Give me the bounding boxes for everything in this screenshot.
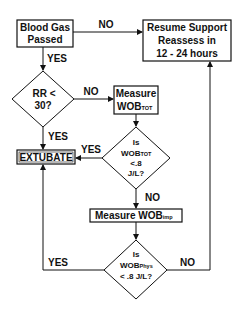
wob-tot-decision-node: Is WOBTOT <.8 J/L?	[102, 127, 170, 189]
arrow-wob-phys-no	[167, 62, 210, 270]
blood-gas-text-1: Blood Gas	[20, 22, 70, 33]
wob-phys-decision-node: Is WOBPhys < .8 J/L?	[104, 240, 167, 299]
resume-text-1: Resume Support	[147, 22, 228, 33]
rr-text-2: 30?	[34, 100, 51, 111]
wob-tot-check-text-4: J/L?	[128, 169, 145, 178]
flowchart: Blood Gas Passed Resume Support Reassess…	[0, 0, 243, 313]
label-wob-tot-yes: YES	[81, 144, 101, 155]
svg-text:WOBTOT: WOBTOT	[121, 149, 152, 158]
svg-text:Measure WOBimp: Measure WOBimp	[95, 210, 173, 221]
measure-wob-tot-node: Measure WOBTOT	[114, 86, 158, 114]
resume-text-3: 12 - 24 hours	[156, 48, 218, 59]
label-rr-yes: YES	[48, 131, 68, 142]
label-bloodgas-yes: YES	[47, 53, 67, 64]
label-wob-phys-no: NO	[180, 257, 195, 268]
label-bloodgas-no: NO	[99, 19, 114, 30]
measure-wob-tot-text-1: Measure	[116, 88, 157, 99]
wob-phys-check-sub: Phys	[140, 263, 153, 269]
label-wob-tot-no: NO	[145, 192, 160, 203]
blood-gas-node: Blood Gas Passed	[17, 20, 73, 47]
measure-wob-imp-sub: imp	[163, 214, 173, 220]
extubate-node: EXTUBATE	[17, 150, 75, 164]
measure-wob-imp-node: Measure WOBimp	[90, 209, 182, 222]
label-wob-phys-yes: YES	[48, 257, 68, 268]
resume-text-2: Reassess in	[158, 35, 216, 46]
wob-phys-check-text-3: < .8 J/L?	[120, 272, 152, 281]
measure-wob-tot-sub: TOT	[141, 105, 153, 111]
rr-decision-node: RR < 30?	[12, 71, 74, 127]
svg-text:WOBPhys: WOBPhys	[120, 261, 153, 270]
extubate-text: EXTUBATE	[19, 152, 72, 163]
wob-tot-check-main: WOB	[121, 149, 141, 158]
rr-text-1: RR <	[32, 88, 55, 99]
wob-tot-check-text-1: Is	[133, 138, 140, 147]
resume-support-node: Resume Support Reassess in 12 - 24 hours	[143, 20, 231, 61]
wob-tot-check-sub: TOT	[141, 151, 153, 157]
wob-phys-check-main: WOB	[120, 261, 140, 270]
label-rr-no: NO	[84, 86, 99, 97]
wob-tot-check-text-3: <.8	[130, 159, 142, 168]
blood-gas-text-2: Passed	[27, 34, 62, 45]
measure-wob-imp-main: Measure WOB	[95, 210, 163, 221]
wob-phys-check-text-1: Is	[133, 250, 140, 259]
measure-wob-tot-main: WOB	[117, 101, 141, 112]
